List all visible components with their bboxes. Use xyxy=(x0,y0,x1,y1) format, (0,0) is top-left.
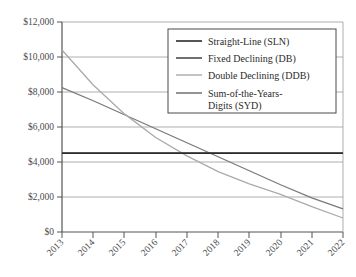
x-tick-labels: 2013 2014 2015 2016 2017 2018 2019 2020 … xyxy=(45,237,347,258)
legend-label-syd-line2: Digits (SYD) xyxy=(208,100,262,112)
y-tick-marks xyxy=(57,22,62,232)
legend-label-db: Fixed Declining (DB) xyxy=(208,53,296,65)
depreciation-comparison-chart: $12,000 $10,000 $8,000 $6,000 $4,000 $2,… xyxy=(0,0,356,277)
y-tick-label: $2,000 xyxy=(28,192,54,202)
y-tick-label: $12,000 xyxy=(23,17,54,27)
y-tick-label: $0 xyxy=(45,227,55,237)
legend-label-syd: Sum-of-the-Years- xyxy=(208,88,283,99)
x-tick-label: 2013 xyxy=(45,237,66,258)
y-tick-label: $4,000 xyxy=(28,157,54,167)
y-tick-label: $8,000 xyxy=(28,87,54,97)
x-tick-label: 2019 xyxy=(232,237,253,258)
x-tick-label: 2018 xyxy=(201,237,222,258)
legend-label-ddb: Double Declining (DDB) xyxy=(208,70,310,82)
legend-label-sln: Straight-Line (SLN) xyxy=(208,36,289,48)
x-tick-label: 2020 xyxy=(264,237,285,258)
x-tick-marks xyxy=(62,232,343,238)
x-tick-label: 2014 xyxy=(76,237,97,258)
x-tick-label: 2021 xyxy=(295,237,316,258)
chart-legend: Straight-Line (SLN) Fixed Declining (DB)… xyxy=(168,29,336,113)
x-tick-label: 2022 xyxy=(326,237,347,258)
y-tick-labels: $12,000 $10,000 $8,000 $6,000 $4,000 $2,… xyxy=(23,17,54,237)
y-tick-label: $6,000 xyxy=(28,122,54,132)
chart-canvas: $12,000 $10,000 $8,000 $6,000 $4,000 $2,… xyxy=(0,0,356,277)
x-tick-label: 2016 xyxy=(139,237,160,258)
y-tick-label: $10,000 xyxy=(23,52,54,62)
x-tick-label: 2017 xyxy=(170,237,191,258)
x-tick-label: 2015 xyxy=(107,237,128,258)
